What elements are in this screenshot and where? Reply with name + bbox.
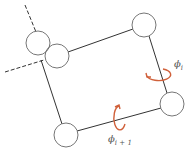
bond-c-e [149, 36, 167, 93]
rotation-arrow-phi-i-icon [146, 69, 171, 81]
bond-d-b [41, 60, 62, 124]
torsion-diagram [0, 0, 192, 157]
bond-b-c [68, 29, 133, 52]
label-phi-i: ϕi [174, 58, 183, 72]
atom-c [132, 13, 156, 37]
phi-i-symbol: ϕ [174, 58, 181, 69]
atom-d [54, 123, 78, 147]
label-phi-i-plus-1: ϕi + 1 [108, 133, 132, 147]
phi-i-plus-1-subscript: i + 1 [115, 139, 132, 147]
dashed-bond-up [25, 5, 36, 32]
phi-i-plus-1-symbol: ϕ [108, 133, 115, 144]
atom-b [45, 44, 69, 68]
rotation-arrow-phi-i-plus-1-icon [114, 105, 125, 130]
bond-e-d [77, 108, 161, 131]
phi-i-subscript: i [181, 64, 183, 72]
dashed-bond-left [5, 60, 44, 72]
atom-e [160, 92, 184, 116]
